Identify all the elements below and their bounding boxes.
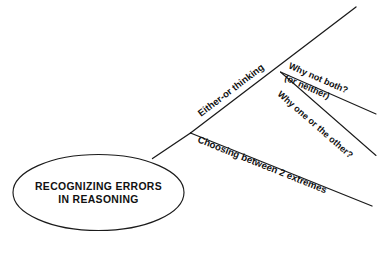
branch-label-either-or-thinking[interactable]: Either-or thinking <box>196 61 266 118</box>
mind-map-canvas: RECOGNIZING ERRORS IN REASONING Either-o… <box>0 0 377 256</box>
root-node-label-line2: IN REASONING <box>58 194 138 205</box>
trunk-line <box>153 133 191 159</box>
branch-label-choosing-between-2-extremes[interactable]: Choosing between 2 extremes <box>196 134 328 196</box>
branch-line-either-or-thinking <box>191 7 357 133</box>
root-node-ellipse[interactable] <box>13 155 184 231</box>
root-node-label-line1: RECOGNIZING ERRORS <box>35 181 162 192</box>
mind-map-diagram: RECOGNIZING ERRORS IN REASONING Either-o… <box>0 0 377 256</box>
